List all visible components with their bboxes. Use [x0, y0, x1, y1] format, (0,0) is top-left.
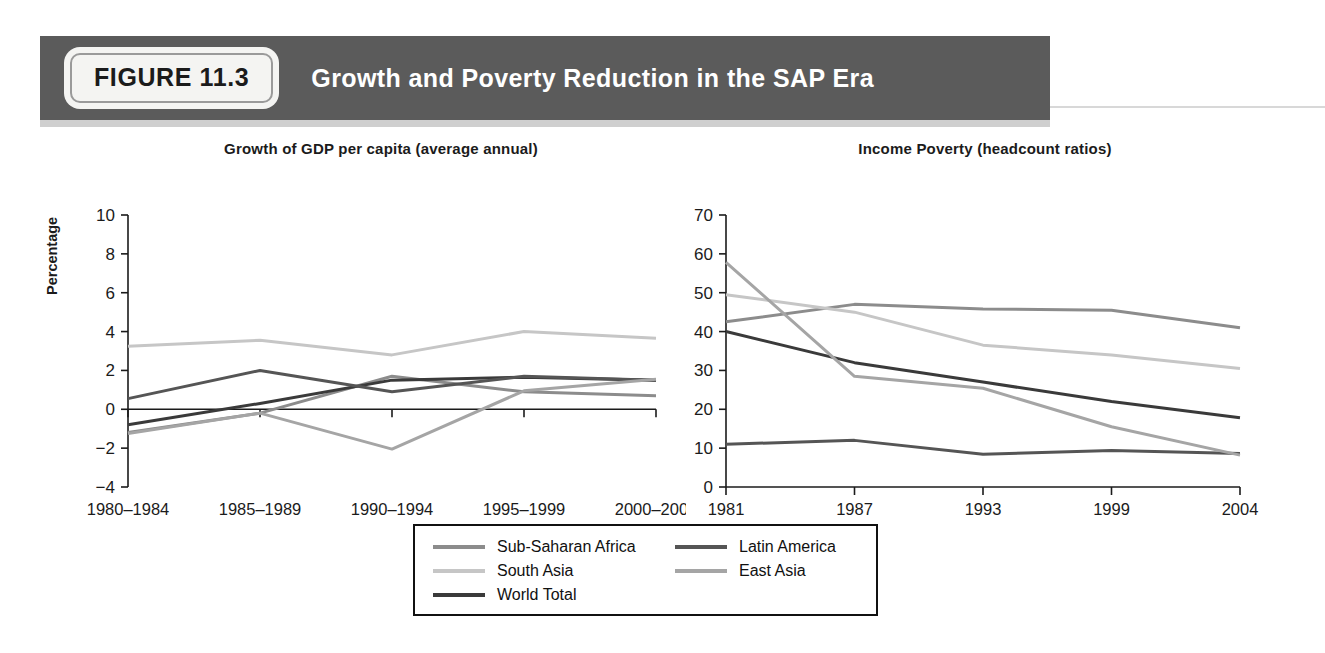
- legend-column-1: Sub-Saharan Africa South Asia World Tota…: [415, 535, 665, 614]
- legend-item-sub-saharan-africa: Sub-Saharan Africa: [433, 535, 665, 559]
- chart-svg-poverty: 01020304050607019811987199319992004: [660, 167, 1300, 517]
- chart-panel-poverty: Income Poverty (headcount ratios) 010203…: [660, 140, 1300, 517]
- legend-swatch-east-asia: [675, 569, 727, 572]
- svg-text:1981: 1981: [708, 500, 745, 517]
- y-axis-label-growth: Percentage: [44, 217, 60, 295]
- svg-text:0: 0: [704, 478, 713, 497]
- svg-text:60: 60: [694, 245, 713, 264]
- legend-label-world-total: World Total: [497, 586, 576, 604]
- svg-text:2004: 2004: [1222, 500, 1259, 517]
- svg-text:−4: −4: [96, 478, 115, 497]
- svg-text:1995–1999: 1995–1999: [483, 500, 566, 517]
- legend-swatch-south-asia: [433, 569, 485, 572]
- legend-label-sub-saharan-africa: Sub-Saharan Africa: [497, 538, 636, 556]
- svg-text:1999: 1999: [1093, 500, 1130, 517]
- svg-text:0: 0: [106, 400, 115, 419]
- plot-area-growth: Percentage −4−202468101980–19841985–1989…: [46, 167, 686, 517]
- plot-area-poverty: 01020304050607019811987199319992004: [660, 167, 1300, 517]
- legend-swatch-sub-saharan-africa: [433, 545, 485, 548]
- figure-title: Growth and Poverty Reduction in the SAP …: [311, 64, 874, 93]
- figure-number-badge: FIGURE 11.3: [70, 53, 273, 103]
- legend-item-world-total: World Total: [433, 583, 665, 607]
- svg-text:1980–1984: 1980–1984: [87, 500, 170, 517]
- svg-text:40: 40: [694, 323, 713, 342]
- legend-swatch-world-total: [433, 593, 485, 596]
- svg-text:1987: 1987: [836, 500, 873, 517]
- svg-text:1993: 1993: [965, 500, 1002, 517]
- legend-item-south-asia: South Asia: [433, 559, 665, 583]
- figure-number-label: FIGURE 11.3: [94, 63, 249, 91]
- svg-text:1985–1989: 1985–1989: [219, 500, 302, 517]
- svg-text:4: 4: [106, 323, 115, 342]
- svg-text:−2: −2: [96, 439, 115, 458]
- chart-svg-growth: −4−202468101980–19841985–19891990–199419…: [46, 167, 686, 517]
- svg-text:6: 6: [106, 284, 115, 303]
- legend-label-east-asia: East Asia: [739, 562, 806, 580]
- svg-text:2: 2: [106, 361, 115, 380]
- svg-text:70: 70: [694, 206, 713, 225]
- banner-rule: [1050, 106, 1325, 108]
- legend-label-south-asia: South Asia: [497, 562, 574, 580]
- legend-swatch-latin-america: [675, 545, 727, 548]
- svg-text:10: 10: [96, 206, 115, 225]
- legend-label-latin-america: Latin America: [739, 538, 836, 556]
- chart-legend: Sub-Saharan Africa South Asia World Tota…: [413, 524, 878, 616]
- figure-page: FIGURE 11.3 Growth and Poverty Reduction…: [0, 0, 1325, 653]
- svg-text:1990–1994: 1990–1994: [351, 500, 434, 517]
- svg-text:20: 20: [694, 400, 713, 419]
- chart-title-poverty: Income Poverty (headcount ratios): [660, 140, 1300, 157]
- legend-column-2: Latin America East Asia: [665, 535, 875, 614]
- svg-text:8: 8: [106, 245, 115, 264]
- chart-panel-growth: Growth of GDP per capita (average annual…: [46, 140, 686, 517]
- legend-item-east-asia: East Asia: [675, 559, 875, 583]
- banner-shadow: [40, 120, 1050, 127]
- svg-text:50: 50: [694, 284, 713, 303]
- svg-text:30: 30: [694, 361, 713, 380]
- legend-item-latin-america: Latin America: [675, 535, 875, 559]
- svg-text:10: 10: [694, 439, 713, 458]
- figure-banner: FIGURE 11.3 Growth and Poverty Reduction…: [40, 36, 1050, 120]
- chart-title-growth: Growth of GDP per capita (average annual…: [46, 140, 686, 157]
